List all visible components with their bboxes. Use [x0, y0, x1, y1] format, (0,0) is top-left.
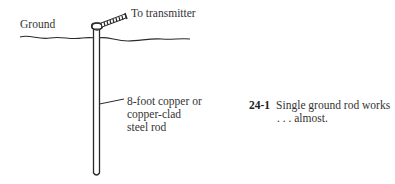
caption-line2: . . . almost. — [249, 112, 390, 125]
rod-label: 8-foot copper or copper-clad steel rod — [127, 95, 202, 134]
caption-line1: Single ground rod works — [276, 99, 390, 111]
ground-label: Ground — [20, 18, 55, 31]
ground-rod-diagram — [0, 0, 395, 184]
ground-rod — [94, 29, 100, 175]
rod-label-line2: copper-clad — [127, 108, 202, 121]
transmitter-label: To transmitter — [131, 7, 196, 20]
rod-label-line1: 8-foot copper or — [127, 95, 202, 108]
rod-leader-line — [100, 99, 125, 104]
ground-surface-line — [20, 36, 190, 41]
figure-number: 24-1 — [249, 99, 270, 111]
cable-to-transmitter — [101, 13, 127, 27]
rod-label-line3: steel rod — [127, 121, 202, 134]
figure-caption: 24-1Single ground rod works . . . almost… — [249, 99, 390, 125]
